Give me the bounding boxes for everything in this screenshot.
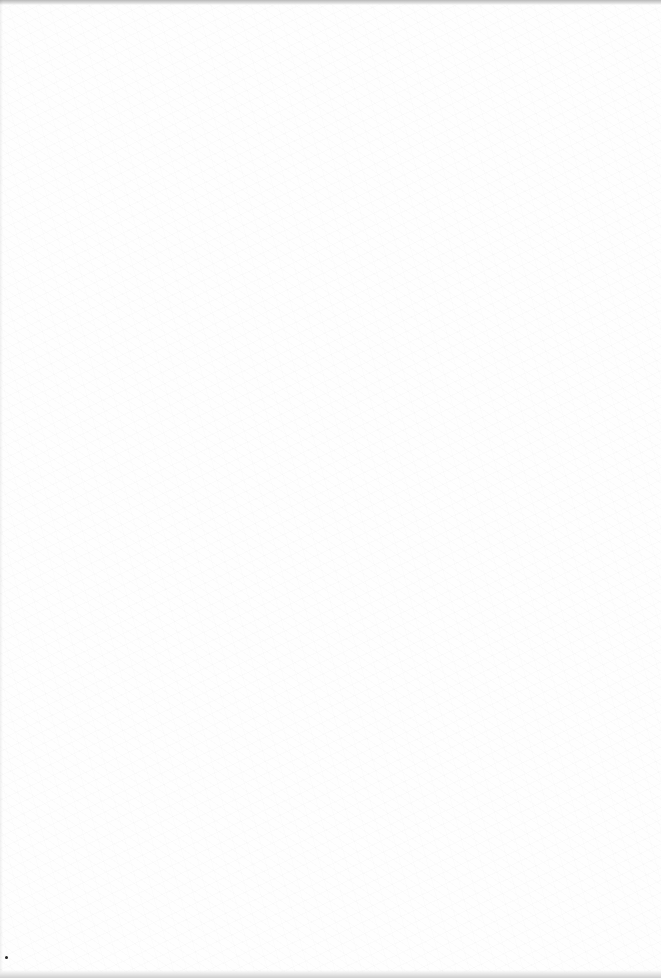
ink-speck xyxy=(5,956,8,959)
scan-edge-left xyxy=(0,0,3,978)
scan-edge-bottom xyxy=(0,970,661,978)
scan-edge-top xyxy=(0,0,661,5)
blank-paper-page xyxy=(0,0,661,978)
